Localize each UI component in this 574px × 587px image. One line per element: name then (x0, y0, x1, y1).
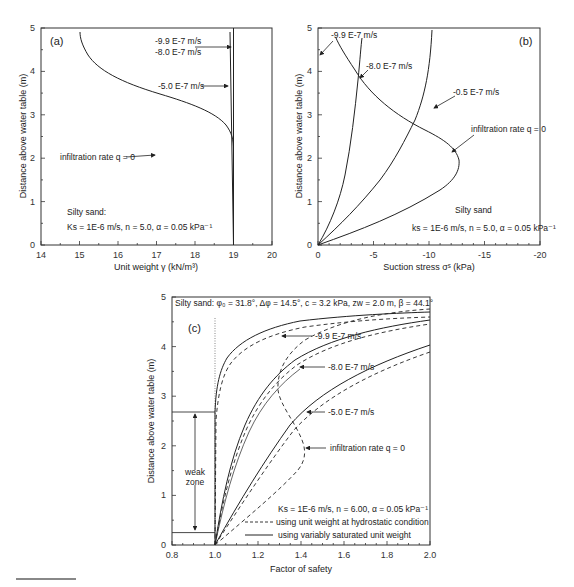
label-8e-7: -8.0 E-7 m/s (328, 362, 374, 372)
x-axis-label: Suction stress σˢ (kPa) (383, 262, 475, 272)
y-tick-label: 5 (161, 292, 166, 302)
y-ticks (318, 28, 322, 245)
figure: 0 1 2 3 4 5 14 15 16 17 18 19 20 Unit we… (0, 0, 574, 587)
x-ticks (172, 541, 430, 545)
x-tick-label: 20 (267, 250, 277, 260)
panel-tag: (b) (519, 35, 532, 47)
y-tick-label: 0 (307, 240, 312, 250)
y-tick-label: 4 (30, 66, 35, 76)
legend-label-hydrostatic: using unit weight at hydrostatic conditi… (276, 517, 429, 527)
label-5e-7: -5.0 E-7 m/s (328, 407, 374, 417)
arrow (320, 41, 333, 55)
curve-5e-7 (230, 32, 234, 245)
y-tick-label: 2 (161, 441, 166, 451)
y-tick-label: 1 (30, 197, 35, 207)
note-params: ks = 1E-6 m/s, n = 5.0, α = 0.05 kPa⁻¹ (412, 223, 556, 233)
y-tick-label: 2 (30, 153, 35, 163)
label-q0: infiltration rate q = 0 (471, 124, 546, 134)
arrow (452, 135, 474, 152)
x-tick-label: 14 (36, 250, 46, 260)
curve-8e-7 (318, 38, 362, 245)
panel-b: 0 1 2 3 4 5 0 -5 -10 -15 -20 Suction str… (294, 23, 556, 272)
x-tick-label: 2.0 (424, 550, 437, 560)
legend-label-variably-saturated: using variably saturated unit weight (278, 530, 411, 540)
y-tick-label: 5 (30, 23, 35, 33)
weak-zone-label: zone (186, 477, 205, 487)
x-tick-label: 18 (190, 250, 200, 260)
y-tick-label: 2 (307, 153, 312, 163)
x-axis-label: Unit weight γ (kN/m³) (114, 262, 198, 272)
x-tick-label: 1.6 (338, 550, 351, 560)
y-axis-label: Distance above water table (m) (294, 74, 304, 199)
y-tick-label: 4 (307, 66, 312, 76)
y-tick-label: 1 (161, 490, 166, 500)
y-tick-label: 1 (307, 197, 312, 207)
label-0.5e-7: -0.5 E-7 m/s (453, 87, 499, 97)
x-tick-label: 1.4 (295, 550, 308, 560)
x-tick-label: -10 (422, 250, 435, 260)
label-8e-7: -8.0 E-7 m/s (366, 61, 412, 71)
x-tick-label: 0.8 (166, 550, 179, 560)
label-9.9e-7: -9.9 E-7 m/s (155, 36, 201, 46)
y-tick-label: 4 (161, 342, 166, 352)
y-tick-label: 0 (161, 540, 166, 550)
y-tick-label: 3 (161, 391, 166, 401)
arrow (360, 70, 368, 78)
x-tick-label: 1.2 (252, 550, 265, 560)
note-material: Silty sand (455, 205, 492, 215)
x-tick-label: 17 (151, 250, 161, 260)
label-q0: infiltration rate q = 0 (60, 152, 135, 162)
x-ticks (318, 241, 540, 245)
panel-c: 0 1 2 3 4 5 0.8 1.0 1.2 1.4 1.6 1.8 2.0 … (146, 292, 436, 574)
y-tick-label: 5 (307, 23, 312, 33)
y-tick-label: 3 (30, 110, 35, 120)
y-axis-label: Distance above water table (m) (18, 74, 28, 199)
label-8e-7: -8.0 E-7 m/s (155, 47, 201, 57)
x-tick-label: 15 (74, 250, 84, 260)
x-tick-label: 16 (113, 250, 123, 260)
note-material: Silty sand: (67, 207, 106, 217)
x-axis-label: Factor of safety (270, 564, 333, 574)
y-axis-label: Distance above water table (m) (146, 359, 156, 484)
caption-bar (16, 578, 76, 580)
note-params: Ks = 1E-6 m/s, n = 6.00, α = 0.05 kPa⁻¹ (278, 504, 428, 514)
x-tick-label: -5 (369, 250, 377, 260)
y-ticks (41, 28, 45, 245)
x-tick-label: -15 (478, 250, 491, 260)
panel-a: 0 1 2 3 4 5 14 15 16 17 18 19 20 Unit we… (18, 23, 277, 272)
label-q0: infiltration rate q = 0 (330, 443, 405, 453)
panel-header: Silty sand: φ₀ = 31.8°, Δφ = 14.5°, c = … (175, 298, 433, 308)
note-params: Ks = 1E-6 m/s, n = 5.0, α = 0.05 kPa⁻¹ (67, 222, 212, 232)
arrow (434, 96, 455, 108)
weak-zone-label: weak (184, 467, 206, 477)
y-tick-label: 0 (30, 240, 35, 250)
label-9.9e-7: -9.9 E-7 m/s (315, 331, 361, 341)
panel-tag: (a) (50, 35, 63, 47)
legend: using unit weight at hydrostatic conditi… (245, 517, 429, 540)
x-tick-label: 0 (315, 250, 320, 260)
x-tick-label: -20 (533, 250, 546, 260)
label-9.9e-7: -9.9 E-7 m/s (331, 30, 377, 40)
label-5e-7: -5.0 E-7 m/s (158, 81, 204, 91)
x-tick-label: 19 (228, 250, 238, 260)
x-tick-label: 1.0 (209, 550, 222, 560)
x-tick-label: 1.8 (381, 550, 394, 560)
panel-tag: (c) (188, 322, 201, 334)
x-ticks (41, 241, 272, 245)
y-tick-label: 3 (307, 110, 312, 120)
y-ticks (172, 297, 176, 545)
